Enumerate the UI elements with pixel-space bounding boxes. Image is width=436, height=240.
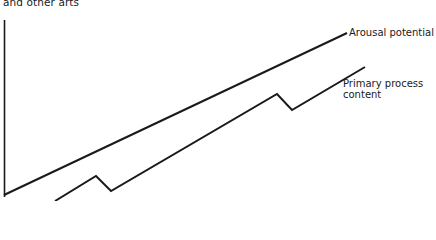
arousal-potential-line (4, 33, 347, 195)
primary-process-label-line1: Primary process (343, 78, 423, 89)
primary-process-line (55, 67, 365, 201)
primary-process-label: Primary process content (343, 78, 423, 100)
primary-process-label-line2: content (343, 89, 423, 100)
arousal-potential-label: Arousal potential (349, 27, 434, 38)
